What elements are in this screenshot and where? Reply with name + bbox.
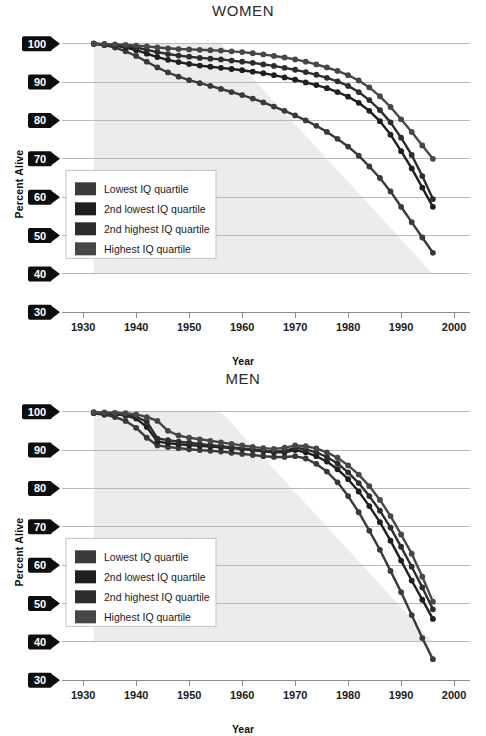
- y-tick-label: 90: [34, 76, 46, 88]
- data-point: [409, 129, 415, 135]
- data-point: [133, 411, 139, 417]
- data-point: [356, 153, 362, 159]
- legend-label: Highest IQ quartile: [104, 611, 191, 623]
- legend-swatch: [75, 182, 96, 195]
- data-point: [176, 74, 182, 80]
- data-point: [409, 152, 415, 158]
- data-point: [366, 108, 372, 114]
- data-point: [377, 107, 383, 113]
- plot-area-women: 1930194019501960197019801990200030405060…: [0, 0, 486, 368]
- data-point: [250, 444, 256, 450]
- data-point: [377, 519, 383, 525]
- data-point: [133, 53, 139, 59]
- data-point: [154, 418, 160, 424]
- y-tick-label: 80: [34, 482, 46, 494]
- data-point: [366, 85, 372, 91]
- data-point: [335, 136, 341, 142]
- data-point: [207, 64, 213, 70]
- data-point: [144, 435, 150, 441]
- data-point: [377, 547, 383, 553]
- data-point: [388, 538, 394, 544]
- data-point: [430, 204, 436, 210]
- data-point: [398, 148, 404, 154]
- chart-svg-men: 1930194019501960197019801990200030405060…: [0, 368, 486, 736]
- data-point: [165, 51, 171, 57]
- data-point: [313, 72, 319, 78]
- y-axis-tag: 100: [22, 404, 60, 419]
- x-tick-label: 1960: [230, 689, 254, 701]
- data-point: [112, 42, 118, 48]
- legend-swatch: [75, 590, 96, 603]
- y-axis-tag: 90: [28, 443, 60, 458]
- data-point: [345, 144, 351, 150]
- data-point: [388, 119, 394, 125]
- data-point: [324, 129, 330, 135]
- data-point: [388, 513, 394, 519]
- data-point: [430, 250, 436, 256]
- data-point: [388, 568, 394, 574]
- data-point: [313, 62, 319, 68]
- data-point: [207, 56, 213, 62]
- data-point: [324, 85, 330, 91]
- data-point: [186, 77, 192, 83]
- data-point: [398, 135, 404, 141]
- y-tick-label: 100: [28, 406, 46, 418]
- data-point: [154, 45, 160, 51]
- legend-label: Lowest IQ quartile: [104, 183, 189, 195]
- data-point: [154, 436, 160, 442]
- panel-men: MEN Percent Alive Year 19301940195019601…: [0, 368, 486, 736]
- data-point: [218, 57, 224, 63]
- data-point: [207, 47, 213, 53]
- data-point: [292, 77, 298, 83]
- y-axis-tag: 30: [28, 305, 60, 320]
- data-point: [430, 606, 436, 612]
- data-point: [409, 551, 415, 557]
- data-point: [409, 166, 415, 172]
- data-point: [324, 75, 330, 81]
- legend-swatch: [75, 570, 96, 583]
- data-point: [335, 68, 341, 74]
- data-point: [324, 65, 330, 71]
- data-point: [356, 78, 362, 84]
- data-point: [271, 53, 277, 59]
- data-point: [197, 63, 203, 69]
- data-point: [229, 58, 235, 64]
- data-point: [154, 54, 160, 60]
- data-point: [303, 118, 309, 124]
- x-tick-label: 1980: [336, 321, 360, 333]
- legend-swatch: [75, 242, 96, 255]
- data-point: [366, 483, 372, 489]
- data-point: [409, 578, 415, 584]
- y-tick-label: 40: [34, 268, 46, 280]
- data-point: [324, 449, 330, 455]
- data-point: [398, 544, 404, 550]
- data-point: [239, 67, 245, 73]
- data-point: [377, 497, 383, 503]
- data-point: [313, 461, 319, 467]
- y-axis-tag: 60: [28, 558, 60, 573]
- data-point: [260, 445, 266, 451]
- data-point: [197, 47, 203, 53]
- y-axis-tag: 90: [28, 75, 60, 90]
- y-axis-tag: 30: [28, 673, 60, 688]
- y-tick-label: 60: [34, 191, 46, 203]
- data-point: [430, 656, 436, 662]
- data-point: [335, 89, 341, 95]
- y-axis-tag: 80: [28, 481, 60, 496]
- data-point: [239, 443, 245, 449]
- data-point: [144, 59, 150, 65]
- data-point: [303, 59, 309, 65]
- legend-label: Lowest IQ quartile: [104, 551, 189, 563]
- data-point: [292, 57, 298, 63]
- data-point: [123, 418, 129, 424]
- data-point: [282, 65, 288, 71]
- data-point: [165, 428, 171, 434]
- data-point: [430, 156, 436, 162]
- data-point: [366, 503, 372, 509]
- x-tick-label: 1930: [71, 689, 95, 701]
- x-tick-label: 1940: [124, 321, 148, 333]
- data-point: [377, 118, 383, 124]
- data-point: [335, 479, 341, 485]
- data-point: [377, 93, 383, 99]
- data-point: [366, 164, 372, 170]
